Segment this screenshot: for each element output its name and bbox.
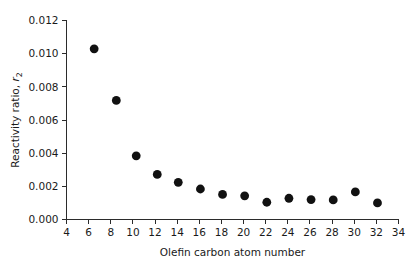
x-tick-label: 22 bbox=[259, 226, 272, 238]
x-tick-label: 26 bbox=[303, 226, 317, 238]
x-tick-label: 12 bbox=[148, 226, 161, 238]
x-tick-label: 4 bbox=[63, 226, 70, 238]
data-point bbox=[153, 170, 162, 179]
x-tick-label: 34 bbox=[392, 226, 406, 238]
y-tick-label: 0.002 bbox=[28, 180, 58, 192]
scatter-plot: 0.0000.0020.0040.0060.0080.0100.012 4681… bbox=[0, 0, 412, 268]
y-tick-label: 0.008 bbox=[28, 81, 58, 93]
data-point bbox=[196, 185, 205, 194]
data-point bbox=[174, 178, 183, 187]
x-tick-label: 20 bbox=[237, 226, 250, 238]
x-tick-label: 28 bbox=[325, 226, 338, 238]
data-point bbox=[373, 199, 382, 208]
figure-container: 0.0000.0020.0040.0060.0080.0100.012 4681… bbox=[0, 0, 412, 268]
y-tick-label: 0.010 bbox=[28, 47, 58, 59]
data-point bbox=[132, 151, 141, 160]
data-point bbox=[351, 188, 360, 197]
x-tick-label: 8 bbox=[107, 226, 114, 238]
data-point bbox=[285, 194, 294, 203]
x-tick-label: 30 bbox=[348, 226, 361, 238]
x-tick-label: 14 bbox=[170, 226, 184, 238]
x-tick-label: 24 bbox=[281, 226, 295, 238]
data-point bbox=[90, 44, 99, 53]
data-point bbox=[218, 190, 227, 199]
y-tick-label: 0.004 bbox=[28, 147, 58, 159]
data-point bbox=[329, 196, 338, 205]
x-tick-label: 18 bbox=[215, 226, 228, 238]
x-tick-label: 10 bbox=[126, 226, 139, 238]
y-tick-label: 0.006 bbox=[28, 114, 58, 126]
x-axis-title: Olefin carbon atom number bbox=[160, 246, 306, 258]
y-tick-label: 0.000 bbox=[28, 213, 58, 225]
data-point bbox=[112, 96, 121, 105]
data-point bbox=[240, 191, 249, 200]
x-tick-label: 32 bbox=[370, 226, 383, 238]
data-point bbox=[262, 198, 271, 207]
data-point bbox=[307, 195, 316, 204]
y-tick-label: 0.012 bbox=[28, 14, 58, 26]
x-tick-label: 6 bbox=[85, 226, 92, 238]
x-tick-label: 16 bbox=[193, 226, 207, 238]
